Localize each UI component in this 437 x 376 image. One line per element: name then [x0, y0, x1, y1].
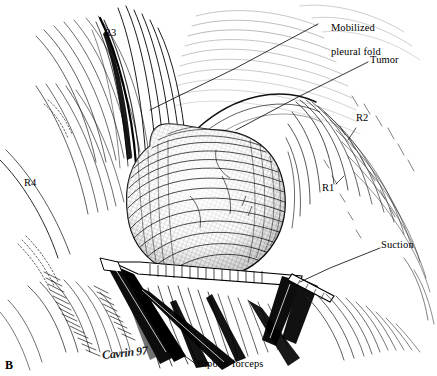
label-suction: Suction: [381, 239, 414, 251]
label-mobilized-line1: Mobilized: [331, 22, 375, 33]
label-bipolar-forceps: Bipolar forceps: [197, 358, 264, 370]
label-tumor: Tumor: [370, 54, 399, 66]
label-r1: R1: [322, 182, 334, 194]
label-r4: R4: [24, 177, 36, 189]
label-r3: R3: [104, 27, 116, 39]
panel-label-b: B: [5, 358, 13, 373]
surgical-illustration-figure: Mobilized pleural fold Tumor R2 R1 Sucti…: [0, 0, 437, 376]
label-r2: R2: [356, 112, 368, 124]
